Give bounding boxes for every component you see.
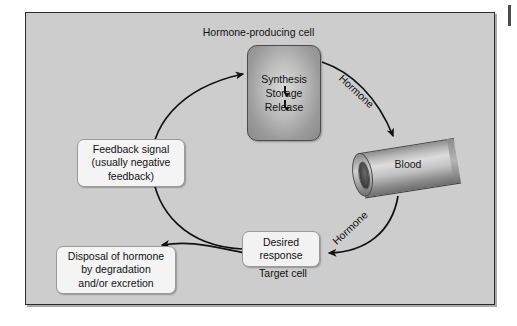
figure-container: Hormone-producing cell Synthesis Storage… <box>0 0 517 326</box>
blood-label: Blood <box>378 158 438 170</box>
cell-step-synthesis: Synthesis <box>261 73 307 85</box>
feedback-signal-box: Feedback signal (usually negative feedba… <box>77 139 185 187</box>
vessel-lumen <box>357 161 372 190</box>
desired-response-box: Desired response <box>242 231 320 267</box>
page-title: Hormone-producing cell <box>0 26 517 38</box>
page-edge-artifact <box>508 5 511 26</box>
hormone-producing-cell-box: Synthesis Storage Release <box>247 45 321 141</box>
target-cell-label: Target cell <box>228 267 338 279</box>
disposal-of-hormone-box: Disposal of hormone by degradation and/o… <box>56 246 176 294</box>
